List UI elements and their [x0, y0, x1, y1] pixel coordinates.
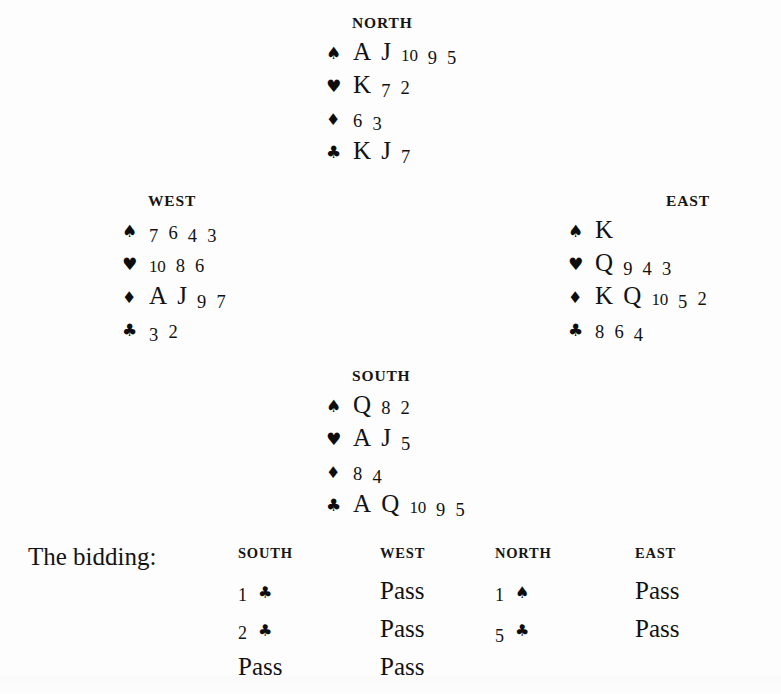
bidding-table: SOUTH WEST NORTH EAST 1♣Pass1♠Pass2♣Pass… — [238, 540, 755, 685]
card-rank: 7 — [216, 293, 225, 312]
card-rank: 3 — [372, 115, 381, 134]
east-heart-row: ♥ Q943 — [568, 250, 710, 283]
card-rank: 10 — [149, 258, 166, 275]
card-rank: 5 — [401, 435, 410, 454]
bidding-cell: 1♠ — [495, 571, 635, 609]
bidding-col-east: EAST — [635, 540, 755, 571]
card-rank: 10 — [651, 291, 668, 308]
bid-pass: Pass — [635, 615, 679, 642]
bid-level: 1 — [238, 585, 247, 605]
card-rank: J — [177, 283, 187, 308]
spade-icon: ♠ — [515, 583, 529, 602]
spade-icon: ♠ — [568, 223, 595, 240]
card-rank: 4 — [643, 260, 652, 279]
card-rank: 3 — [207, 227, 216, 246]
south-heart-row: ♥ AJ5 — [326, 425, 465, 458]
north-club-row: ♣ KJ7 — [326, 138, 456, 171]
spade-icon: ♠ — [122, 223, 149, 240]
bidding-col-west: WEST — [380, 540, 495, 571]
diamond-icon: ♦ — [568, 290, 595, 306]
east-club-row: ♣ 864 — [568, 316, 710, 349]
west-spades: 7643 — [149, 217, 217, 242]
card-rank: 6 — [168, 224, 177, 243]
bidding-cell: 2♣ — [238, 609, 380, 647]
card-rank: 9 — [197, 293, 206, 312]
card-rank: 6 — [353, 112, 362, 131]
bid-pass: Pass — [380, 653, 424, 680]
card-rank: 4 — [188, 227, 197, 246]
bidding-cell: Pass — [380, 571, 495, 609]
card-rank: 5 — [678, 293, 687, 312]
diamond-icon: ♦ — [122, 290, 149, 306]
heart-icon: ♥ — [122, 256, 149, 273]
north-spade-row: ♠ AJ1095 — [326, 39, 456, 72]
card-rank: 8 — [595, 323, 604, 342]
card-rank: 8 — [176, 257, 185, 276]
card-rank: 2 — [697, 290, 706, 309]
bid-pass: Pass — [635, 577, 679, 604]
bidding-cell: 5♣ — [495, 609, 635, 647]
heart-icon: ♥ — [326, 431, 353, 448]
club-icon: ♣ — [568, 322, 595, 339]
spade-icon: ♠ — [326, 398, 353, 415]
card-rank: 8 — [381, 399, 390, 418]
east-spade-row: ♠ K — [568, 217, 710, 250]
bidding-row: 1♣Pass1♠Pass — [238, 571, 755, 609]
east-diamond-row: ♦ KQ1052 — [568, 283, 710, 316]
west-club-row: ♣ 32 — [122, 316, 226, 349]
card-rank: 4 — [372, 468, 381, 487]
card-rank: K — [595, 217, 613, 242]
east-hearts: Q943 — [595, 250, 671, 275]
card-rank: A — [149, 283, 167, 308]
card-rank: 9 — [623, 260, 632, 279]
diamond-icon: ♦ — [326, 465, 353, 481]
bidding-cell: Pass — [635, 609, 755, 647]
hand-east-label: EAST — [666, 192, 710, 210]
card-rank: A — [353, 39, 371, 64]
club-icon: ♣ — [258, 621, 272, 640]
east-spades: K — [595, 217, 613, 242]
card-rank: J — [381, 425, 391, 450]
bidding-row: 2♣Pass5♣Pass — [238, 609, 755, 647]
heart-icon: ♥ — [326, 78, 353, 95]
west-diamond-row: ♦ AJ97 — [122, 283, 226, 316]
south-spade-row: ♠ Q82 — [326, 392, 465, 425]
card-rank: Q — [353, 392, 371, 417]
card-rank: K — [353, 72, 371, 97]
spade-icon: ♠ — [326, 45, 353, 62]
north-hearts: K72 — [353, 72, 410, 97]
card-rank: 6 — [614, 323, 623, 342]
west-heart-row: ♥ 1086 — [122, 250, 226, 283]
south-clubs: AQ1095 — [353, 491, 465, 516]
bidding-title: The bidding: — [28, 544, 156, 569]
bid-level: 2 — [238, 623, 247, 643]
card-rank: 10 — [409, 499, 426, 516]
bidding-col-north: NORTH — [495, 540, 635, 571]
diamond-icon: ♦ — [326, 112, 353, 128]
hand-north-label: NORTH — [352, 14, 456, 32]
card-rank: J — [381, 39, 391, 64]
north-clubs: KJ7 — [353, 138, 410, 163]
card-rank: 5 — [455, 501, 464, 520]
north-diamond-row: ♦ 63 — [326, 105, 456, 138]
north-diamonds: 63 — [353, 105, 382, 130]
bidding-cell: Pass — [380, 609, 495, 647]
south-spades: Q82 — [353, 392, 410, 417]
south-hearts: AJ5 — [353, 425, 410, 450]
card-rank: 4 — [634, 326, 643, 345]
card-rank: 7 — [401, 148, 410, 167]
hand-east: EAST ♠ K ♥ Q943 ♦ KQ1052 ♣ 864 — [568, 192, 710, 349]
card-rank: Q — [623, 283, 641, 308]
hand-west-label: WEST — [148, 192, 226, 210]
card-rank: 7 — [381, 82, 390, 101]
bidding-cell: Pass — [238, 647, 380, 685]
card-rank: 9 — [436, 501, 445, 520]
card-rank: 2 — [401, 399, 410, 418]
hand-south-label: SOUTH — [352, 367, 465, 385]
card-rank: 2 — [168, 323, 177, 342]
card-rank: K — [595, 283, 613, 308]
hand-west: WEST ♠ 7643 ♥ 1086 ♦ AJ97 ♣ 32 — [122, 192, 226, 349]
card-rank: Q — [381, 491, 399, 516]
club-icon: ♣ — [122, 322, 149, 339]
card-rank: A — [353, 491, 371, 516]
